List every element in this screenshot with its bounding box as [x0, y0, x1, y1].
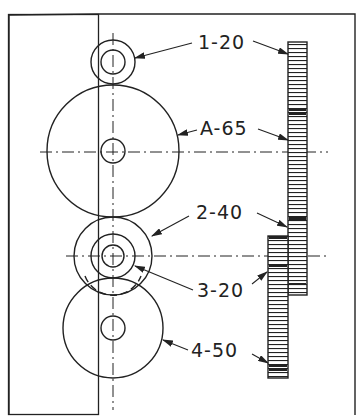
label-gear-2: 2-40: [196, 201, 243, 223]
drawing-frame: [9, 15, 99, 415]
label-gear-1: 1-20: [198, 31, 245, 53]
label-gear-4: 4-50: [191, 339, 238, 361]
label-gear-a: A-65: [200, 117, 248, 139]
side-gear-upper: [288, 42, 307, 295]
gear-train-drawing: 1-20 A-65 2-40 3-20 4-50: [0, 0, 364, 418]
label-gear-3: 3-20: [197, 279, 244, 301]
side-gear-lower: [268, 236, 288, 378]
